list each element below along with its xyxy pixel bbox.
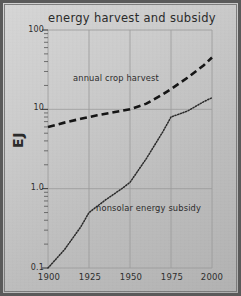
series-label-annual-crop-harvest: annual crop harvest — [73, 73, 159, 83]
chart-figure: energy harvest and subsidy EJ 100 10 1.0… — [0, 0, 241, 296]
plot-area — [0, 0, 241, 296]
gridlines — [48, 30, 212, 268]
series-label-nonsolar-energy-subsidy: nonsolar energy subsidy — [96, 203, 201, 213]
y-axis-minor-ticks — [42, 30, 48, 268]
